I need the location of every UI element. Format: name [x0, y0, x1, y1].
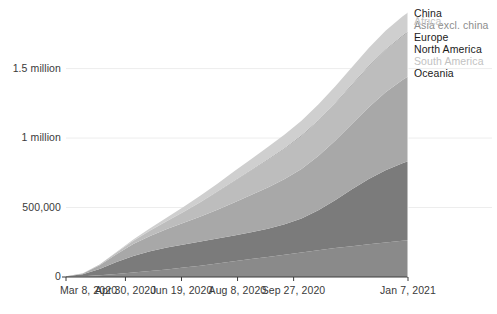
y-tick-label: 0: [55, 270, 61, 282]
x-tick-label: Jan 7, 2021: [380, 284, 436, 296]
x-tick-label: Jun 19, 2020: [150, 284, 212, 296]
x-tick-label: Apr 30, 2020: [95, 284, 156, 296]
series-label-europe: Europe: [414, 31, 448, 43]
stacked-area-chart: 0500,0001 million1.5 million Mar 8, 2020…: [0, 0, 497, 314]
x-tick-label: Sep 27, 2020: [262, 284, 326, 296]
y-tick-label: 1.5 million: [13, 62, 61, 74]
y-tick-label: 500,000: [22, 201, 61, 213]
series-label-north-america: North America: [414, 43, 482, 55]
series-label-oceania: Oceania: [414, 67, 454, 79]
series-label-south-america: South America: [414, 55, 484, 67]
series-label-africa: Africa: [414, 15, 441, 27]
x-tick-label: Aug 8, 2020: [209, 284, 267, 296]
y-tick-label: 1 million: [22, 131, 61, 143]
